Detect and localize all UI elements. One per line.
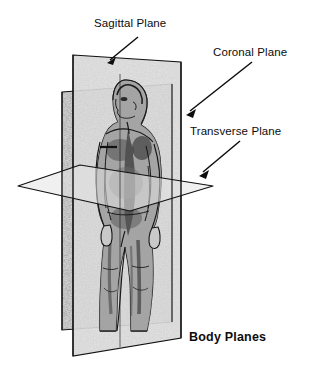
diagram-title: Body Planes: [189, 331, 266, 343]
transverse-plane: [18, 165, 213, 211]
body-planes-diagram: Sagittal Plane Coronal Plane Transverse …: [0, 0, 314, 384]
coronal-plane-label: Coronal Plane: [213, 46, 287, 58]
sagittal-plane-label: Sagittal Plane: [94, 17, 166, 29]
transverse-arrow: [199, 141, 240, 179]
coronal-arrow: [186, 62, 252, 118]
transverse-plane-label: Transverse Plane: [190, 125, 281, 137]
